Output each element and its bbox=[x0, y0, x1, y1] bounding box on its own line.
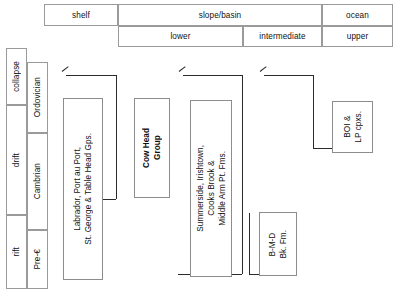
unit-label-bmd-black-formation: B-M-D Bk. Fm. bbox=[267, 230, 289, 259]
header-cell-ocean: ocean bbox=[322, 4, 393, 26]
slope-connector-arrowhead bbox=[179, 68, 186, 75]
ocean-connector-top-segment bbox=[264, 75, 314, 76]
unit-box-shelf-succession[interactable]: Labrador, Port au Port, St. George & Tab… bbox=[63, 98, 103, 280]
unit-label-ophiolite-complexes: BOI & LP cpxs. bbox=[342, 111, 364, 143]
axis-cell-rift: rift bbox=[6, 215, 27, 289]
header-label-ocean: ocean bbox=[346, 11, 369, 20]
unit-label-shelf-succession: Labrador, Port au Port, St. George & Tab… bbox=[72, 133, 94, 245]
header-cell-slope-basin: slope/basin bbox=[118, 4, 322, 26]
axis-label-precambrian: Pre-€ bbox=[33, 249, 42, 270]
header-cell-shelf: shelf bbox=[44, 4, 118, 26]
bmd-connector-vertical-segment bbox=[249, 213, 250, 274]
axis-cell-collapse: collapse bbox=[6, 48, 27, 105]
header-cell-lower: lower bbox=[118, 26, 243, 47]
axis-label-ordovician: Ordovician bbox=[33, 77, 42, 117]
axis-label-drift: drift bbox=[12, 153, 21, 167]
shelf-connector-arrowhead bbox=[62, 68, 69, 75]
axis-cell-drift: drift bbox=[6, 105, 27, 215]
shelf-connector-top-segment bbox=[66, 75, 116, 76]
axis-label-collapse: collapse bbox=[12, 61, 21, 92]
unit-box-ophiolite-complexes[interactable]: BOI & LP cpxs. bbox=[332, 101, 373, 153]
slope-connector-vertical-segment bbox=[242, 75, 243, 274]
slope-connector-top-segment bbox=[183, 75, 242, 76]
axis-cell-precambrian: Pre-€ bbox=[27, 230, 48, 289]
header-label-intermediate: intermediate bbox=[259, 32, 305, 41]
unit-box-lower-slope-formations[interactable]: Summerside, Irishtown, Cooks Brook & Mid… bbox=[190, 100, 232, 277]
axis-label-cambrian: Cambrian bbox=[33, 163, 42, 199]
unit-label-cow-head-group: Cow Head Group bbox=[141, 128, 163, 168]
ocean-connector-vertical-segment bbox=[313, 75, 314, 149]
header-cell-upper: upper bbox=[322, 26, 393, 47]
axis-label-rift: rift bbox=[12, 247, 21, 257]
ocean-connector-arrowhead bbox=[260, 68, 267, 75]
unit-box-cow-head-group[interactable]: Cow Head Group bbox=[134, 98, 170, 198]
header-label-upper: upper bbox=[347, 32, 368, 41]
stratigraphic-chart: shelf slope/basin ocean lower intermedia… bbox=[0, 0, 395, 294]
header-label-shelf: shelf bbox=[72, 11, 90, 20]
unit-box-bmd-black-formation[interactable]: B-M-D Bk. Fm. bbox=[259, 212, 297, 276]
header-label-lower: lower bbox=[170, 32, 190, 41]
axis-cell-ordovician: Ordovician bbox=[27, 62, 48, 133]
unit-label-lower-slope-formations: Summerside, Irishtown, Cooks Brook & Mid… bbox=[195, 145, 228, 232]
shelf-connector-vertical-segment bbox=[116, 75, 117, 199]
axis-cell-cambrian: Cambrian bbox=[27, 133, 48, 230]
header-label-slope-basin: slope/basin bbox=[199, 11, 242, 20]
header-cell-intermediate: intermediate bbox=[243, 26, 322, 47]
